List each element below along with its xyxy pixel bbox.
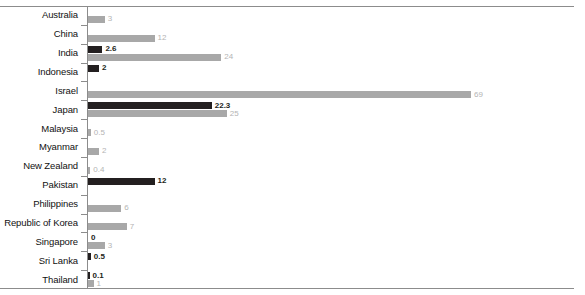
category-label: India bbox=[0, 47, 78, 58]
bar-light bbox=[88, 242, 105, 249]
chart-row: Indonesia2 bbox=[0, 63, 574, 82]
axis-tick bbox=[81, 232, 87, 233]
bar-light bbox=[88, 35, 155, 42]
bar-light bbox=[88, 54, 221, 61]
chart-row: Myanmar2 bbox=[0, 138, 574, 157]
axis-tick bbox=[81, 176, 87, 177]
axis-tick bbox=[81, 6, 87, 7]
bar-light bbox=[88, 129, 91, 136]
bar-light bbox=[88, 223, 127, 230]
bar-dark bbox=[88, 65, 99, 72]
bar-value-label: 0.5 bbox=[94, 129, 105, 137]
axis-tick bbox=[81, 119, 87, 120]
chart-row: China12 bbox=[0, 25, 574, 44]
chart-row: New Zealand0.4 bbox=[0, 157, 574, 176]
axis-tick bbox=[81, 138, 87, 139]
chart-row: Sri Lanka0.5 bbox=[0, 251, 574, 270]
chart-row: Pakistan12 bbox=[0, 176, 574, 195]
category-label: Israel bbox=[0, 85, 78, 96]
axis-tick bbox=[81, 44, 87, 45]
axis-tick bbox=[81, 251, 87, 252]
bar-value-label: 0.5 bbox=[94, 253, 105, 261]
chart-row: Israel69 bbox=[0, 81, 574, 100]
axis-tick bbox=[81, 100, 87, 101]
axis-tick bbox=[81, 63, 87, 64]
bar-value-label: 25 bbox=[230, 110, 239, 118]
bar-value-label: 24 bbox=[224, 53, 233, 61]
bar-chart: Australia3China12India2.624Indonesia2Isr… bbox=[0, 0, 585, 295]
bar-light bbox=[88, 91, 471, 98]
bar-light bbox=[88, 16, 105, 23]
bar-value-label: 3 bbox=[108, 242, 112, 250]
bar-value-label: 2.6 bbox=[105, 45, 116, 53]
chart-row: Japan22.325 bbox=[0, 100, 574, 119]
category-label: Australia bbox=[0, 9, 78, 20]
bar-value-label: 0 bbox=[91, 234, 95, 242]
axis-tick bbox=[81, 81, 87, 82]
axis-tick bbox=[81, 157, 87, 158]
bar-dark bbox=[88, 272, 90, 279]
plot-area: Australia3China12India2.624Indonesia2Isr… bbox=[0, 6, 574, 289]
bar-value-label: 12 bbox=[158, 177, 167, 185]
bar-light bbox=[88, 205, 121, 212]
category-label: Thailand bbox=[0, 274, 78, 285]
bar-value-label: 0.4 bbox=[93, 166, 104, 174]
axis-tick bbox=[81, 270, 87, 271]
bar-dark bbox=[88, 102, 212, 109]
category-label: New Zealand bbox=[0, 160, 78, 171]
axis-tick bbox=[81, 195, 87, 196]
bar-value-label: 2 bbox=[102, 147, 106, 155]
chart-row: Thailand0.11 bbox=[0, 270, 574, 289]
bar-light bbox=[88, 148, 99, 155]
category-label: Republic of Korea bbox=[0, 217, 78, 228]
bar-dark bbox=[88, 178, 155, 185]
bar-value-label: 2 bbox=[102, 64, 106, 72]
chart-row: India2.624 bbox=[0, 44, 574, 63]
bar-value-label: 7 bbox=[130, 223, 134, 231]
chart-row: Australia3 bbox=[0, 6, 574, 25]
bar-dark bbox=[88, 46, 102, 53]
category-label: Pakistan bbox=[0, 179, 78, 190]
bar-light bbox=[88, 280, 94, 287]
category-label: Indonesia bbox=[0, 66, 78, 77]
bar-value-label: 69 bbox=[474, 91, 483, 99]
chart-row: Malaysia0.5 bbox=[0, 119, 574, 138]
category-label: China bbox=[0, 28, 78, 39]
category-label: Sri Lanka bbox=[0, 255, 78, 266]
category-label: Myanmar bbox=[0, 141, 78, 152]
category-label: Philippines bbox=[0, 198, 78, 209]
chart-row: Philippines6 bbox=[0, 195, 574, 214]
chart-row: Singapore03 bbox=[0, 232, 574, 251]
bar-value-label: 12 bbox=[158, 34, 167, 42]
bar-value-label: 1 bbox=[97, 280, 101, 288]
bar-dark bbox=[88, 253, 91, 260]
category-label: Singapore bbox=[0, 236, 78, 247]
chart-row: Republic of Korea7 bbox=[0, 214, 574, 233]
category-label: Japan bbox=[0, 104, 78, 115]
bar-light bbox=[88, 110, 227, 117]
bar-value-label: 6 bbox=[124, 204, 128, 212]
bar-light bbox=[88, 167, 90, 174]
bar-value-label: 3 bbox=[108, 15, 112, 23]
category-label: Malaysia bbox=[0, 123, 78, 134]
axis-tick bbox=[81, 214, 87, 215]
axis-tick bbox=[81, 25, 87, 26]
bar-value-label: 22.3 bbox=[215, 102, 231, 110]
